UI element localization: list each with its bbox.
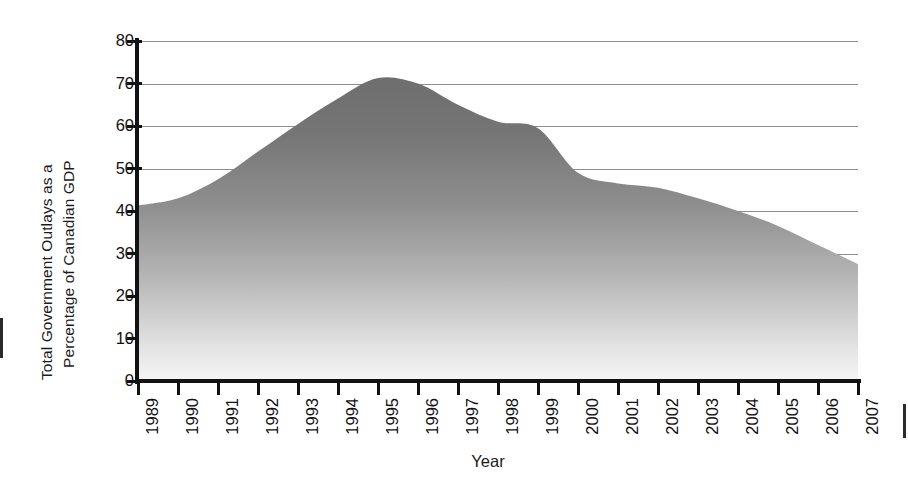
x-axis-tick-label: 1990: [184, 398, 201, 435]
gridline: [138, 339, 858, 340]
x-axis-tick-label: 1995: [384, 398, 401, 435]
x-axis-tick: [217, 382, 220, 395]
x-axis-tick-label: 1992: [264, 398, 281, 435]
x-axis-tick-label: 1998: [504, 398, 521, 435]
x-axis-tick-label: 2006: [824, 398, 841, 435]
x-axis-tick-label: 1997: [464, 398, 481, 435]
x-axis-tick: [257, 382, 260, 395]
y-axis-tick-labels: 80706050403020100: [92, 0, 134, 400]
x-axis-tick: [777, 382, 780, 395]
x-axis-tick-label: 2003: [704, 398, 721, 435]
page-edge-mark-right: [903, 404, 906, 438]
x-axis-tick-label: 2007: [864, 398, 881, 435]
x-axis-tick: [577, 382, 580, 395]
x-axis-tick-label: 1989: [144, 398, 161, 435]
y-axis-title: Total Government Outlays as a Percentage…: [22, 0, 86, 400]
x-axis-tick: [377, 382, 380, 395]
chart-figure: Total Government Outlays as a Percentage…: [0, 0, 908, 493]
y-axis-line: [135, 38, 139, 384]
x-axis-tick: [857, 382, 860, 395]
x-axis-line: [135, 379, 861, 383]
gridline: [138, 254, 858, 255]
x-axis-tick: [737, 382, 740, 395]
x-axis-tick: [297, 382, 300, 395]
x-axis-tick: [657, 382, 660, 395]
x-axis-tick-label: 2002: [664, 398, 681, 435]
y-axis-title-line-2: Percentage of Canadian GDP: [60, 160, 78, 368]
x-axis-tick: [817, 382, 820, 395]
x-axis-tick: [177, 382, 180, 395]
x-axis-tick-label: 1996: [424, 398, 441, 435]
x-axis-tick: [497, 382, 500, 395]
x-axis-tick-label: 2005: [784, 398, 801, 435]
x-axis-tick: [617, 382, 620, 395]
x-axis-tick: [537, 382, 540, 395]
page-edge-mark-left: [0, 318, 3, 358]
gridline: [138, 296, 858, 297]
gridline: [138, 169, 858, 170]
x-axis-tick: [697, 382, 700, 395]
x-axis-tick-label: 1994: [344, 398, 361, 435]
x-axis-tick-label: 1999: [544, 398, 561, 435]
x-axis-tick-label: 1993: [304, 398, 321, 435]
gridline: [138, 84, 858, 85]
gridline: [138, 126, 858, 127]
gridline: [138, 211, 858, 212]
x-axis-tick-label: 1991: [224, 398, 241, 435]
gridline: [138, 41, 858, 42]
x-axis-tick: [457, 382, 460, 395]
x-axis-tick: [417, 382, 420, 395]
x-axis-title-text: Year: [471, 452, 504, 470]
x-axis-tick: [337, 382, 340, 395]
y-axis-title-line-1: Total Government Outlays as a: [38, 164, 56, 380]
x-axis-tick-label: 2000: [584, 398, 601, 435]
x-axis-title: Year: [0, 452, 908, 471]
x-axis-tick-label: 2004: [744, 398, 761, 435]
x-axis-tick-label: 2001: [624, 398, 641, 435]
